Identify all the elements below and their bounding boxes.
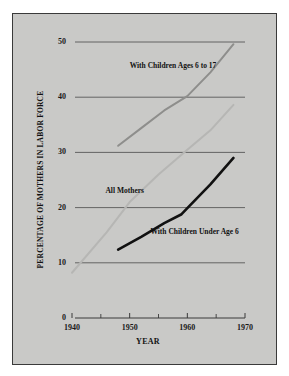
y-axis-title: PERCENTAGE OF MOTHERS IN LABOR FORCE bbox=[36, 80, 45, 280]
series-label: All Mothers bbox=[105, 186, 144, 195]
series-line bbox=[72, 105, 233, 273]
x-axis-tick-label: 1960 bbox=[170, 323, 204, 332]
x-axis-tick-label: 1950 bbox=[113, 323, 147, 332]
y-axis-tick-label-zero: 0 bbox=[48, 313, 66, 322]
series-label: With Children Under Age 6 bbox=[150, 227, 238, 236]
x-axis-title: YEAR bbox=[118, 337, 178, 346]
x-axis-tick-label: 1970 bbox=[228, 323, 262, 332]
y-axis-tick-label: 40 bbox=[48, 92, 66, 101]
y-axis-tick-label: 30 bbox=[48, 147, 66, 156]
series-label: With Children Ages 6 to 17 bbox=[130, 61, 217, 70]
chart-figure: PERCENTAGE OF MOTHERS IN LABOR FORCE YEA… bbox=[0, 0, 289, 376]
x-axis-tick-label: 1940 bbox=[55, 323, 89, 332]
series-line bbox=[118, 44, 233, 146]
y-axis-tick-label: 10 bbox=[48, 258, 66, 267]
y-axis-tick-label: 50 bbox=[48, 37, 66, 46]
y-axis-tick-label: 20 bbox=[48, 203, 66, 212]
